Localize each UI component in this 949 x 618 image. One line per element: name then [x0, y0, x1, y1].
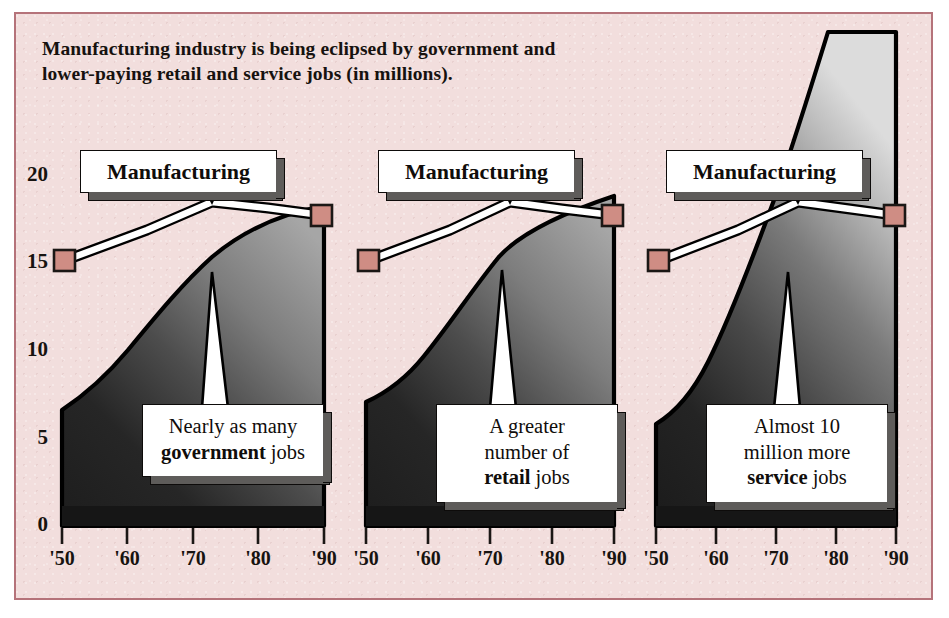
marker-1950-service [648, 250, 669, 271]
marker-1990-retail [602, 205, 623, 226]
box-shadow-bottom [714, 502, 894, 511]
box-shadow-right [323, 412, 332, 483]
y-tick-15: 15 [14, 249, 48, 274]
x-tick-service-90: '90 [876, 547, 916, 570]
note-service-text: Almost 10million moreservice jobs [744, 415, 850, 488]
x-tick-service-70: '70 [756, 547, 796, 570]
title-line-1: Manufacturing industry is being eclipsed… [42, 36, 642, 61]
box-shadow-right [862, 158, 871, 199]
x-tick-service-60: '60 [696, 547, 736, 570]
x-tick-retail-90: '90 [594, 547, 634, 570]
note-government: Nearly as many government jobs [142, 404, 324, 477]
series-label-government-text: Manufacturing [107, 159, 250, 184]
marker-1950-retail [358, 250, 379, 271]
series-label-retail: Manufacturing [378, 150, 575, 193]
x-tick-retail-80: '80 [532, 547, 572, 570]
box-shadow-bottom [150, 476, 330, 485]
x-tick-government-80: '80 [238, 547, 278, 570]
box-shadow-right [574, 158, 583, 199]
box-shadow-right [887, 412, 896, 509]
box-shadow-right [276, 158, 285, 199]
series-label-service: Manufacturing [666, 150, 863, 193]
note-retail-text: A greaternumber ofretail jobs [484, 415, 570, 488]
series-label-service-text: Manufacturing [693, 159, 836, 184]
x-tick-retail-60: '60 [408, 547, 448, 570]
box-shadow-bottom [674, 192, 869, 201]
chart-frame: Manufacturing industry is being eclipsed… [14, 12, 933, 600]
marker-1990-service [884, 205, 905, 226]
y-tick-5: 5 [14, 425, 48, 450]
note-government-text: Nearly as many government jobs [161, 415, 305, 463]
box-shadow-bottom [444, 502, 624, 511]
x-tick-retail-50: '50 [346, 547, 386, 570]
x-tick-government-50: '50 [42, 547, 82, 570]
x-ticks-retail [366, 528, 614, 544]
x-ticks-government [62, 528, 324, 544]
y-tick-0: 0 [14, 512, 48, 537]
marker-1950-government [54, 250, 75, 271]
plot-canvas [16, 14, 935, 602]
note-service: Almost 10million moreservice jobs [706, 404, 888, 503]
box-shadow-bottom [88, 192, 283, 201]
series-label-government: Manufacturing [80, 150, 277, 193]
x-tick-service-50: '50 [636, 547, 676, 570]
marker-1990-government [311, 205, 332, 226]
box-shadow-right [617, 412, 626, 509]
chart-title: Manufacturing industry is being eclipsed… [42, 36, 642, 86]
x-tick-government-90: '90 [304, 547, 344, 570]
x-ticks-service [656, 528, 896, 544]
title-line-2: lower-paying retail and service jobs (in… [42, 61, 642, 86]
panel-government [54, 164, 332, 544]
series-label-retail-text: Manufacturing [405, 159, 548, 184]
x-tick-government-70: '70 [173, 547, 213, 570]
y-tick-20: 20 [14, 162, 48, 187]
x-tick-retail-70: '70 [470, 547, 510, 570]
x-tick-service-80: '80 [816, 547, 856, 570]
x-tick-government-60: '60 [107, 547, 147, 570]
area-base-government [62, 506, 324, 526]
figure-root: Manufacturing industry is being eclipsed… [0, 0, 949, 618]
box-shadow-bottom [386, 192, 581, 201]
y-tick-10: 10 [14, 337, 48, 362]
note-retail: A greaternumber ofretail jobs [436, 404, 618, 503]
